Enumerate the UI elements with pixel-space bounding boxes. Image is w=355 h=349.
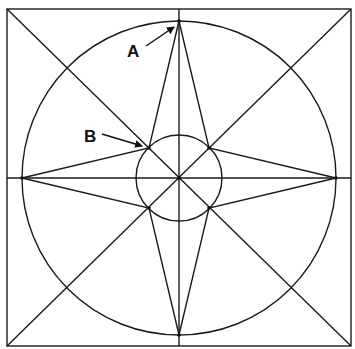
vertex-dot-top [177, 19, 181, 23]
vertex-dot-bottom [177, 333, 181, 337]
diagram-canvas: A B [0, 0, 355, 349]
label-b: B [84, 127, 96, 146]
inner-vertex-dot-tl [147, 146, 151, 150]
vertex-dot-left [20, 176, 24, 180]
vertex-dot-right [334, 176, 338, 180]
center-point [177, 176, 181, 180]
inner-vertex-dot-br [207, 206, 211, 210]
arrow-a [146, 27, 174, 46]
inner-vertex-dot-tr [207, 146, 211, 150]
inner-vertex-dot-bl [147, 206, 151, 210]
label-a: A [127, 42, 139, 61]
compass-star-diagram: A B [0, 0, 355, 349]
